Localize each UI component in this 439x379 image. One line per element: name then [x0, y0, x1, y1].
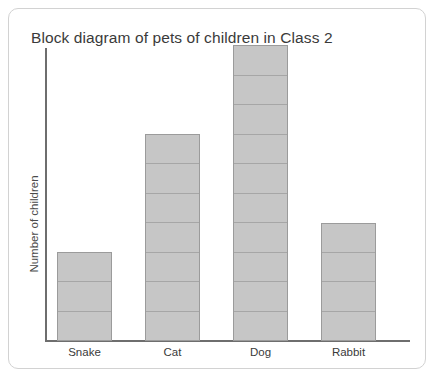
block	[322, 282, 375, 311]
block	[234, 282, 287, 312]
block	[234, 135, 287, 165]
block	[322, 312, 375, 340]
bar-cat	[145, 134, 200, 341]
block	[146, 164, 199, 193]
x-tick-label-cat: Cat	[128, 346, 218, 358]
block	[146, 194, 199, 223]
block	[58, 312, 111, 340]
y-axis-line	[45, 48, 47, 342]
bar-rabbit	[321, 223, 376, 341]
bar-snake	[57, 252, 112, 341]
block	[234, 194, 287, 224]
block	[234, 253, 287, 283]
block	[146, 223, 199, 252]
block	[146, 312, 199, 340]
block	[146, 135, 199, 164]
block	[322, 224, 375, 253]
x-tick-label-snake: Snake	[40, 346, 130, 358]
block	[234, 76, 287, 106]
y-axis-label: Number of children	[28, 144, 40, 304]
bar-dog	[233, 45, 288, 341]
x-tick-label-dog: Dog	[216, 346, 306, 358]
x-tick-label-rabbit: Rabbit	[304, 346, 394, 358]
block-diagram-plot: Number of children SnakeCatDogRabbit	[0, 0, 439, 379]
block	[146, 282, 199, 311]
block	[58, 253, 111, 282]
block	[234, 223, 287, 253]
block	[234, 105, 287, 135]
block	[146, 253, 199, 282]
block	[234, 46, 287, 76]
block	[234, 312, 287, 341]
block	[58, 282, 111, 311]
block	[322, 253, 375, 282]
block	[234, 164, 287, 194]
